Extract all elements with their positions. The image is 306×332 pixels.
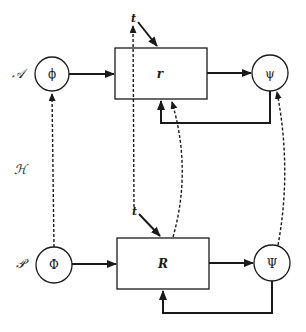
phi-small-label: ϕ: [48, 67, 56, 81]
edge-Psi-feedback-to-R: [163, 281, 272, 313]
edge-t-to-R: [139, 214, 160, 236]
box-r: r: [115, 48, 207, 99]
node-psi-small: ψ: [252, 55, 288, 91]
block-diagram: 𝒜 ℋ 𝒫 ϕ r ψ t Φ R Ψ t: [0, 0, 306, 332]
row-label-a: 𝒜: [12, 66, 28, 81]
dashed-t-bottom-to-t-top: [133, 26, 134, 207]
psi-cap-label: Ψ: [267, 257, 278, 271]
row-label-p: 𝒫: [16, 256, 29, 271]
time-label-top: t: [131, 12, 136, 25]
node-phi-small: ϕ: [35, 57, 69, 91]
edge-psi-feedback-to-r: [161, 91, 270, 123]
dashed-Phi-to-phi: [52, 94, 54, 247]
box-R-label: R: [157, 257, 168, 271]
node-phi-cap: Φ: [36, 247, 72, 283]
box-r-label: r: [157, 67, 165, 81]
psi-small-label: ψ: [265, 67, 274, 81]
box-R: R: [117, 238, 209, 289]
phi-cap-label: Φ: [49, 258, 59, 272]
node-psi-cap: Ψ: [254, 245, 290, 281]
dashed-Psi-to-psi: [277, 92, 285, 245]
row-label-h: ℋ: [14, 162, 29, 177]
edge-t-to-r: [138, 22, 157, 46]
